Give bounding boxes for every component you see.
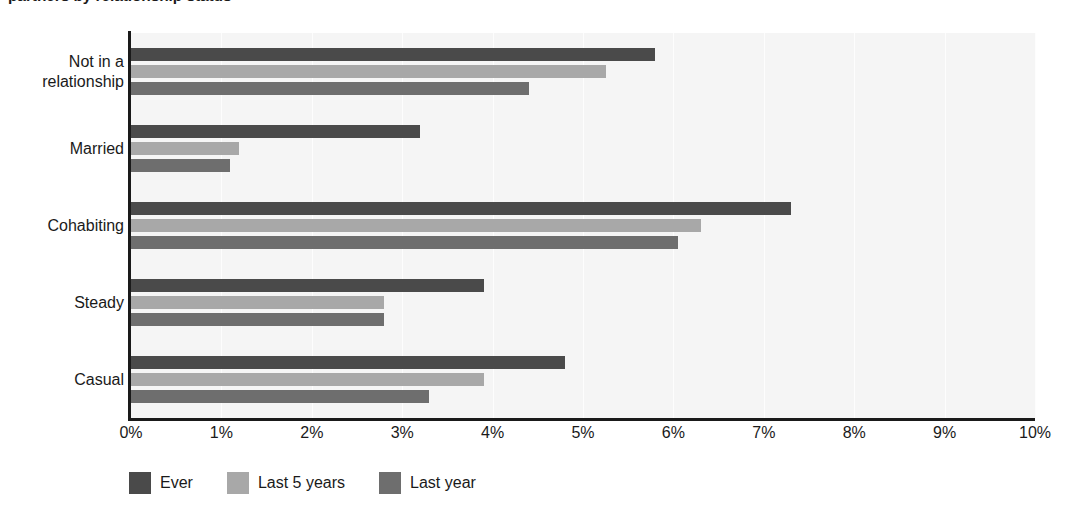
bar xyxy=(131,373,484,386)
x-axis-tick-label: 6% xyxy=(638,424,708,442)
legend-item-last-5-years[interactable]: Last 5 years xyxy=(227,472,345,494)
y-axis-tick-label-line: Steady xyxy=(0,293,124,313)
bar xyxy=(131,356,565,369)
x-axis-tick-label: 0% xyxy=(96,424,166,442)
bar-group xyxy=(131,341,1035,418)
bar xyxy=(131,219,701,232)
bar xyxy=(131,296,384,309)
chart-figure: partners by relationship status Not in a… xyxy=(0,0,1084,516)
bar xyxy=(131,159,230,172)
y-axis-tick-label: Casual xyxy=(0,370,124,390)
x-axis-tick-label: 7% xyxy=(729,424,799,442)
x-axis-tick-label: 9% xyxy=(910,424,980,442)
bar xyxy=(131,313,384,326)
x-axis-tick-label: 10% xyxy=(1000,424,1070,442)
legend-item-ever[interactable]: Ever xyxy=(129,472,193,494)
plot-area xyxy=(131,33,1035,418)
bar xyxy=(131,279,484,292)
bar-group xyxy=(131,110,1035,187)
x-axis-tick-label: 3% xyxy=(367,424,437,442)
bar-group xyxy=(131,264,1035,341)
legend-label: Last 5 years xyxy=(258,474,345,492)
y-axis-tick-label: Cohabiting xyxy=(0,216,124,236)
y-axis-tick-label: Married xyxy=(0,139,124,159)
bar-group xyxy=(131,33,1035,110)
x-axis-tick-label: 4% xyxy=(458,424,528,442)
y-axis-tick-label-line: Not in a xyxy=(0,52,124,72)
gridline xyxy=(1035,33,1036,418)
y-axis-tick-label-line: Married xyxy=(0,139,124,159)
x-axis-tick-label: 1% xyxy=(186,424,256,442)
x-axis-tick-label: 2% xyxy=(277,424,347,442)
bar xyxy=(131,236,678,249)
chart-title: partners by relationship status xyxy=(8,0,1078,9)
y-axis-tick-label-line: Casual xyxy=(0,370,124,390)
x-axis-tick-label: 5% xyxy=(548,424,618,442)
legend-swatch-icon xyxy=(379,472,401,494)
x-axis-tick-label: 8% xyxy=(819,424,889,442)
legend-item-last-year[interactable]: Last year xyxy=(379,472,476,494)
chart-legend: EverLast 5 yearsLast year xyxy=(129,470,476,496)
bar xyxy=(131,142,239,155)
bar xyxy=(131,82,529,95)
x-axis-tick-labels: 0%1%2%3%4%5%6%7%8%9%10% xyxy=(131,424,1035,450)
y-axis-tick-labels: Not in arelationshipMarriedCohabitingSte… xyxy=(0,33,124,418)
y-axis-tick-label: Not in arelationship xyxy=(0,52,124,92)
x-axis-line xyxy=(128,418,1035,421)
bar xyxy=(131,202,791,215)
y-axis-line xyxy=(128,31,131,420)
bar xyxy=(131,48,655,61)
legend-label: Ever xyxy=(160,474,193,492)
y-axis-tick-label-line: relationship xyxy=(0,72,124,92)
legend-swatch-icon xyxy=(227,472,249,494)
bar xyxy=(131,125,420,138)
legend-label: Last year xyxy=(410,474,476,492)
y-axis-tick-label-line: Cohabiting xyxy=(0,216,124,236)
bar xyxy=(131,390,429,403)
y-axis-tick-label: Steady xyxy=(0,293,124,313)
bar xyxy=(131,65,606,78)
legend-swatch-icon xyxy=(129,472,151,494)
bar-group xyxy=(131,187,1035,264)
